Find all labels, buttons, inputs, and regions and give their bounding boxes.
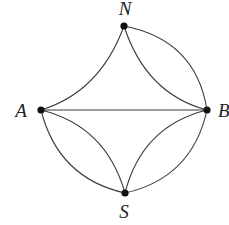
node-b <box>203 106 210 113</box>
node-label-s: S <box>119 201 129 222</box>
edge-a-s-convex-outward <box>41 110 125 193</box>
edge-n-b-concave-inward <box>124 26 207 110</box>
node-label-a: A <box>13 100 27 121</box>
edge-b-s-convex-outward <box>125 110 207 193</box>
graph-svg: NABS <box>0 0 229 225</box>
edge-n-b-convex-outward <box>124 26 207 110</box>
node-s <box>121 189 128 196</box>
edges-layer <box>41 26 207 193</box>
node-label-b: B <box>218 100 229 121</box>
edge-a-s-concave-inward <box>41 110 125 193</box>
node-n <box>120 22 127 29</box>
graph-diagram: NABS <box>0 0 229 225</box>
node-a <box>37 106 44 113</box>
node-label-n: N <box>118 0 133 19</box>
edge-a-n-concave-inward <box>41 26 124 110</box>
edge-b-s-concave-inward <box>125 110 207 193</box>
